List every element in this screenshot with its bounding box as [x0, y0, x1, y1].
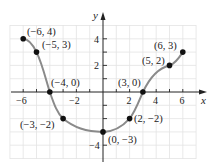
point-label: (3, 0) — [118, 77, 141, 89]
x-tick-label: 6 — [180, 95, 185, 106]
point-neg4-0 — [47, 89, 53, 95]
point-2-neg2 — [127, 116, 133, 122]
point-3-0 — [140, 89, 146, 95]
point-label: (−6, 4) — [27, 26, 56, 38]
y-tick-label: 4 — [94, 34, 99, 45]
point-5-2 — [167, 63, 173, 69]
x-tick-label: 2 — [127, 95, 132, 106]
y-tick-label: −4 — [89, 140, 100, 151]
point-label: (2, −2) — [134, 113, 163, 125]
x-axis-label: x — [200, 94, 206, 106]
point-label: (−3, −2) — [20, 119, 55, 131]
point-label: (0, −3) — [108, 134, 137, 146]
y-tick-label: 2 — [94, 60, 99, 71]
y-axis-label: y — [92, 9, 98, 21]
y-axis — [101, 12, 106, 162]
x-tick-label: 4 — [153, 95, 158, 106]
x-tick-label: −2 — [69, 95, 80, 106]
point-neg5-3 — [34, 49, 40, 55]
function-graph: x y −6 −2 2 4 6 4 2 −4 (−6, 4) (−5, 3) (… — [0, 0, 217, 167]
point-6-3 — [180, 49, 186, 55]
point-0-neg3 — [100, 129, 106, 135]
x-axis — [11, 90, 207, 95]
x-tick-label: −6 — [16, 95, 27, 106]
point-label: (−4, 0) — [51, 77, 80, 89]
point-neg3-neg2 — [60, 116, 66, 122]
point-label: (6, 3) — [154, 40, 177, 52]
point-label: (5, 2) — [142, 55, 165, 67]
point-label: (−5, 3) — [42, 39, 71, 51]
point-neg6-4 — [20, 36, 26, 42]
